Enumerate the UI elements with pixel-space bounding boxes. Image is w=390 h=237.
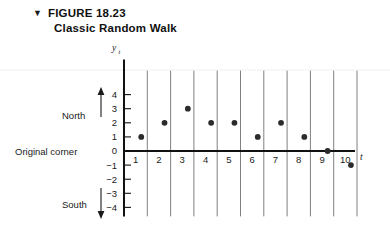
axes [124, 60, 355, 217]
data-point [348, 162, 354, 168]
x-tick-label: 1 [133, 154, 138, 165]
x-tick-label: 4 [203, 154, 208, 165]
data-point [325, 148, 331, 154]
x-tick-label: 8 [296, 154, 301, 165]
x-tick-label: 6 [250, 154, 255, 165]
data-point [255, 134, 261, 140]
arrow-down-icon [98, 211, 105, 219]
x-tick-label: 7 [273, 154, 278, 165]
x-axis-tick-labels: 12345678910 [133, 154, 351, 165]
data-point [185, 106, 191, 112]
south-annotation: South [62, 188, 104, 219]
data-point [162, 120, 168, 126]
y-axis-tick-labels: 43210−1−2−3−4 [106, 89, 117, 213]
data-point [301, 134, 307, 140]
data-point [208, 120, 214, 126]
svg-text:t: t [119, 48, 121, 55]
origin-label: Original corner [15, 146, 77, 157]
y-tick-label: −2 [106, 174, 117, 185]
arrow-up-icon [98, 87, 105, 95]
y-tick-label: 0 [112, 145, 117, 156]
data-point [232, 120, 238, 126]
y-tick-label: −4 [106, 202, 117, 213]
south-label: South [62, 199, 87, 210]
random-walk-chart: 43210−1−2−3−4 12345678910 y t t North So… [0, 0, 390, 237]
x-tick-label: 2 [156, 154, 161, 165]
y-tick-label: 2 [112, 117, 117, 128]
y-tick-label: 4 [112, 89, 117, 100]
figure-root: ▼ FIGURE 18.23 Classic Random Walk 43210… [0, 0, 390, 237]
x-tick-label: 5 [226, 154, 231, 165]
y-tick-label: 3 [112, 103, 117, 114]
y-tick-label: −1 [106, 160, 117, 171]
x-axis-name: t [360, 152, 363, 162]
x-tick-label: 9 [319, 154, 324, 165]
x-tick-label: 3 [180, 154, 185, 165]
gridlines [147, 71, 357, 217]
north-annotation: North [62, 87, 104, 121]
north-label: North [62, 110, 85, 121]
svg-text:y: y [111, 43, 117, 53]
data-point [138, 134, 144, 140]
data-point [278, 120, 284, 126]
y-tick-label: −3 [106, 188, 117, 199]
y-axis-name: y t [111, 43, 121, 55]
y-tick-label: 1 [112, 131, 117, 142]
